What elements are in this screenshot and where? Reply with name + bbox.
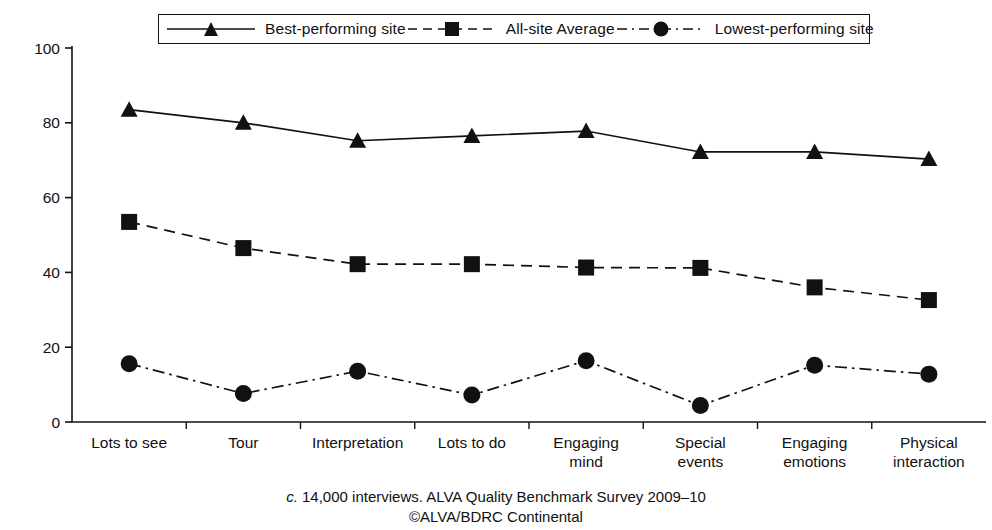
data-point-circle	[349, 363, 366, 380]
chart-caption: c. 14,000 interviews. ALVA Quality Bench…	[0, 487, 992, 528]
data-point-square	[807, 279, 823, 295]
data-point-circle	[920, 366, 937, 383]
y-axis-tick-label: 0	[51, 414, 60, 431]
data-point-triangle	[121, 101, 138, 117]
caption-prefix: c.	[286, 488, 298, 505]
x-axis-category-label: Lots to do	[438, 434, 506, 451]
data-point-circle	[806, 357, 823, 374]
data-point-square	[235, 240, 251, 256]
data-point-circle	[121, 355, 138, 372]
data-point-square	[350, 256, 366, 272]
y-axis-tick-label: 80	[43, 114, 61, 131]
data-point-square	[921, 292, 937, 308]
y-axis-tick-label: 60	[43, 189, 61, 206]
data-point-circle	[578, 352, 595, 369]
x-axis-category-label: Specialevents	[675, 434, 726, 470]
data-series-1	[121, 101, 938, 166]
data-point-square	[121, 214, 137, 230]
series-line	[129, 110, 929, 159]
data-point-circle	[692, 397, 709, 414]
x-axis-category-label: Physicalinteraction	[893, 434, 965, 470]
data-point-square	[692, 260, 708, 276]
x-axis-category-label: Tour	[228, 434, 258, 451]
y-axis-tick-label: 100	[34, 40, 60, 57]
caption-line-1: 14,000 interviews. ALVA Quality Benchmar…	[302, 488, 706, 505]
data-series-2	[121, 214, 937, 308]
data-point-square	[578, 260, 594, 276]
data-point-triangle	[578, 123, 595, 139]
caption-line-2: ©ALVA/BDRC Continental	[0, 507, 992, 527]
data-series-3	[121, 352, 938, 414]
x-axis-category-label: Lots to see	[91, 434, 167, 451]
x-axis-category-label: Engagingemotions	[782, 434, 848, 470]
y-axis-tick-label: 40	[43, 264, 61, 281]
x-axis-category-label: Interpretation	[312, 434, 403, 451]
data-point-circle	[463, 387, 480, 404]
chart-figure: Best-performing site All-site Average Lo…	[0, 0, 992, 530]
data-point-square	[464, 256, 480, 272]
plot-area: 020406080100Lots to seeTourInterpretatio…	[0, 0, 992, 530]
x-axis-category-label: Engagingmind	[553, 434, 619, 470]
data-point-circle	[235, 385, 252, 402]
y-axis-tick-label: 20	[43, 339, 61, 356]
